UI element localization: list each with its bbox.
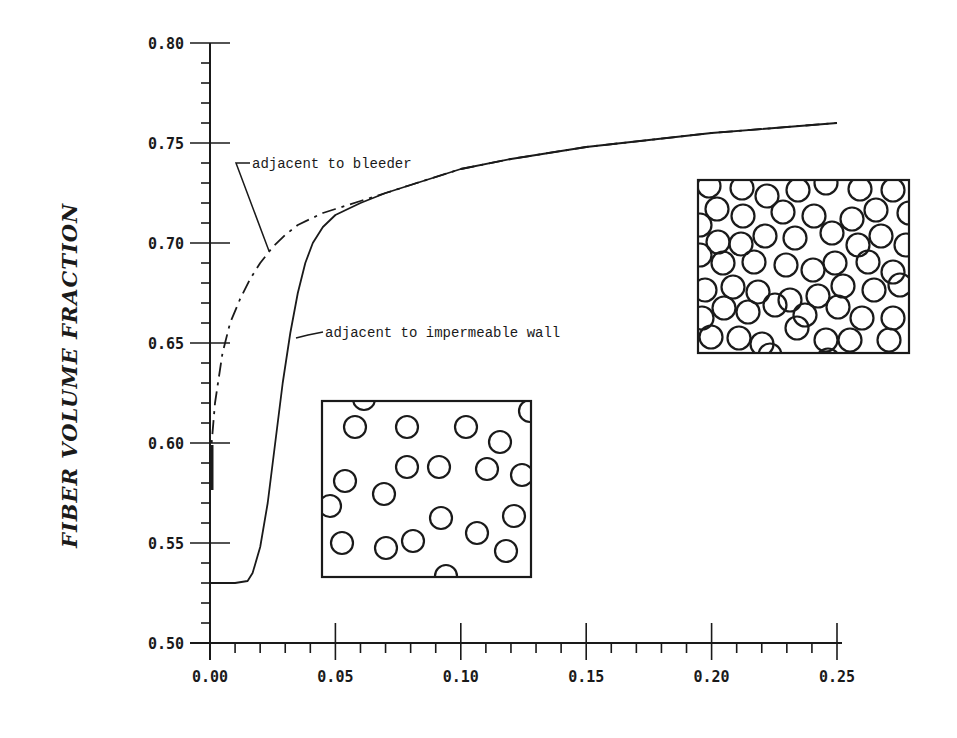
leader-line-wall: [296, 332, 323, 338]
chart-canvas: 0.500.550.600.650.700.750.800.000.050.10…: [0, 0, 957, 738]
inset-sparse-fiber-packing: [319, 388, 541, 587]
leader-line-bleeder: [236, 163, 269, 251]
y-tick-label: 0.55: [148, 535, 184, 553]
x-tick-label: 0.25: [819, 668, 855, 686]
y-tick-label: 0.80: [148, 35, 184, 53]
x-tick-label: 0.15: [568, 668, 604, 686]
x-tick-label: 0.10: [443, 668, 479, 686]
y-axis-label: FIBER VOLUME FRACTION: [57, 203, 82, 549]
y-tick-label: 0.65: [148, 335, 184, 353]
tick-labels: 0.500.550.600.650.700.750.800.000.050.10…: [148, 35, 855, 686]
annotations: adjacent to bleeder adjacent to impermea…: [236, 156, 560, 341]
y-tick-label: 0.70: [148, 235, 184, 253]
x-tick-label: 0.00: [192, 668, 228, 686]
x-tick-label: 0.05: [317, 668, 353, 686]
inset-dense-fiber-packing: [689, 172, 921, 372]
y-tick-label: 0.60: [148, 435, 184, 453]
x-tick-label: 0.20: [694, 668, 730, 686]
y-tick-label: 0.75: [148, 135, 184, 153]
y-tick-label: 0.50: [148, 635, 184, 653]
annotation-bleeder: adjacent to bleeder: [252, 156, 412, 172]
annotation-impermeable-wall: adjacent to impermeable wall: [325, 325, 560, 341]
